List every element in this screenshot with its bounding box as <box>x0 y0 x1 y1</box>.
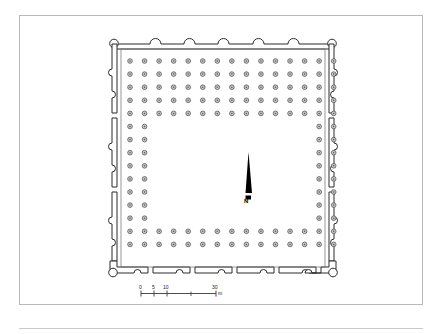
column-core <box>129 178 131 180</box>
column-core <box>231 113 233 115</box>
column-core <box>144 152 146 154</box>
column-core <box>260 86 262 88</box>
column-core <box>246 60 248 62</box>
column-core <box>129 217 131 219</box>
column-core <box>202 73 204 75</box>
column-core <box>318 217 320 219</box>
column-core <box>144 178 146 180</box>
column-core <box>129 152 131 154</box>
column-core <box>333 126 335 128</box>
column-core <box>173 100 175 102</box>
column-core <box>129 73 131 75</box>
column-core <box>187 60 189 62</box>
column-core <box>333 231 335 233</box>
column-core <box>260 60 262 62</box>
inner-wall-face <box>121 49 325 267</box>
column-core <box>260 231 262 233</box>
column-core <box>304 100 306 102</box>
column-core <box>304 73 306 75</box>
column-core <box>173 113 175 115</box>
column-core <box>129 165 131 167</box>
column-core <box>144 165 146 167</box>
column-core <box>144 139 146 141</box>
column-core <box>318 204 320 206</box>
top-wall <box>114 39 332 50</box>
column-core <box>202 60 204 62</box>
left-wall-segment-3 <box>109 192 118 261</box>
column-core <box>318 231 320 233</box>
column-core <box>304 60 306 62</box>
column-core <box>246 231 248 233</box>
column-core <box>217 100 219 102</box>
column-core <box>304 231 306 233</box>
column-core <box>318 86 320 88</box>
column-core <box>246 100 248 102</box>
column-core <box>173 244 175 246</box>
column-core <box>217 113 219 115</box>
column-core <box>275 100 277 102</box>
column-core <box>231 86 233 88</box>
column-core <box>129 113 131 115</box>
column-core <box>275 113 277 115</box>
column-core <box>202 231 204 233</box>
column-core <box>129 231 131 233</box>
column-core <box>129 100 131 102</box>
scale-label-10: 10 <box>163 285 169 290</box>
column-core <box>318 191 320 193</box>
column-core <box>129 60 131 62</box>
column-core <box>187 244 189 246</box>
column-core <box>275 86 277 88</box>
column-core <box>333 165 335 167</box>
column-core <box>144 204 146 206</box>
column-core <box>173 231 175 233</box>
column-core <box>231 244 233 246</box>
column-core <box>304 86 306 88</box>
column-core <box>333 152 335 154</box>
column-core <box>144 73 146 75</box>
column-core <box>144 231 146 233</box>
column-core <box>158 100 160 102</box>
column-core <box>129 139 131 141</box>
column-core <box>129 126 131 128</box>
column-core <box>187 100 189 102</box>
column-core <box>217 86 219 88</box>
column-core <box>333 73 335 75</box>
column-core <box>144 113 146 115</box>
corner-tower-bottom-right <box>329 268 338 277</box>
column-core <box>129 191 131 193</box>
column-core <box>318 60 320 62</box>
column-core <box>144 191 146 193</box>
bottom-wall-segment-4 <box>237 267 274 273</box>
column-core <box>231 100 233 102</box>
scale-label-5: 5 <box>152 285 155 290</box>
column-core <box>144 100 146 102</box>
bottom-wall-segment-3 <box>195 267 232 273</box>
column-core <box>304 244 306 246</box>
north-arrow-needle <box>246 152 253 193</box>
scale-unit-label: m <box>218 291 222 296</box>
column-core <box>333 60 335 62</box>
scale-label-30: 30 <box>212 285 218 290</box>
column-core <box>129 86 131 88</box>
column-core <box>144 126 146 128</box>
column-core <box>260 73 262 75</box>
column-core <box>158 244 160 246</box>
column-core <box>187 73 189 75</box>
column-core <box>275 60 277 62</box>
column-core <box>289 86 291 88</box>
column-core <box>275 244 277 246</box>
column-core <box>202 100 204 102</box>
column-core <box>158 113 160 115</box>
left-wall-segment-2 <box>109 118 118 187</box>
column-core <box>231 60 233 62</box>
column-core <box>333 86 335 88</box>
column-core <box>158 73 160 75</box>
column-core <box>144 244 146 246</box>
column-core <box>144 86 146 88</box>
right-wall-segment-3 <box>329 192 338 261</box>
column-core <box>217 60 219 62</box>
column-core <box>333 191 335 193</box>
column-core <box>289 60 291 62</box>
column-core <box>333 100 335 102</box>
column-core <box>144 60 146 62</box>
